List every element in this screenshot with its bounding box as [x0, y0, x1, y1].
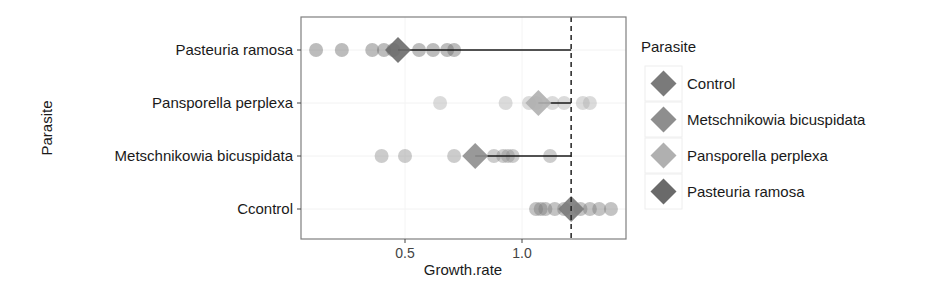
y-axis-title: Parasite [38, 100, 55, 155]
data-point [433, 96, 447, 110]
plot-panel [301, 17, 626, 239]
data-point [447, 149, 461, 163]
x-axis-title: Growth.rate [424, 261, 502, 278]
chart: CcontrolMetschnikowia bicuspidataPanspor… [0, 0, 943, 290]
data-point [604, 202, 618, 216]
data-point [583, 96, 597, 110]
y-tick-label: Metschnikowia bicuspidata [115, 147, 294, 164]
legend: Parasite ControlMetschnikowia bicuspidat… [641, 38, 866, 209]
y-tick-label: Ccontrol [237, 200, 293, 217]
x-tick-label: 0.5 [395, 245, 415, 261]
x-axis: 0.51.0 [395, 239, 532, 261]
legend-label: Pansporella perplexa [687, 147, 829, 164]
y-tick-label: Pasteuria ramosa [175, 41, 293, 58]
legend-label: Control [687, 75, 735, 92]
x-tick-label: 1.0 [512, 245, 532, 261]
data-point [309, 43, 323, 57]
data-point [335, 43, 349, 57]
y-axis: CcontrolMetschnikowia bicuspidataPanspor… [115, 41, 301, 217]
legend-label: Metschnikowia bicuspidata [687, 111, 866, 128]
legend-title: Parasite [641, 38, 696, 55]
data-point [499, 96, 513, 110]
legend-label: Pasteuria ramosa [687, 183, 805, 200]
data-point [375, 149, 389, 163]
y-tick-label: Pansporella perplexa [152, 94, 294, 111]
data-point [398, 149, 412, 163]
